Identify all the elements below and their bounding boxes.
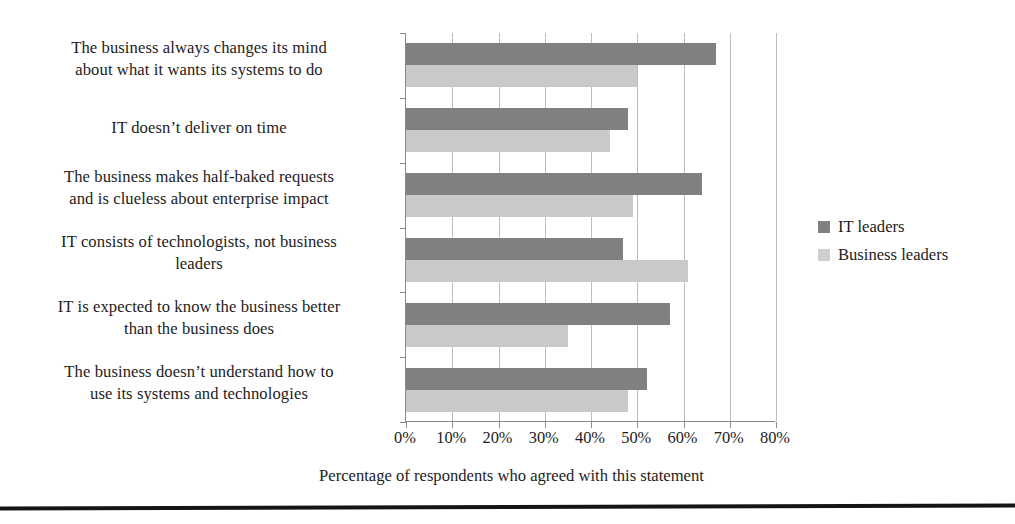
legend-swatch-icon-business-leaders (818, 249, 830, 261)
bar-chart-figure: The business always changes its mind abo… (0, 0, 1015, 524)
bar-it-leaders-5 (406, 303, 670, 325)
gridline-80% (776, 33, 777, 421)
bar-it-leaders-6 (406, 368, 647, 390)
gridline-50% (637, 33, 638, 421)
footer-divider (0, 504, 1015, 511)
bar-business-leaders-6 (406, 390, 628, 412)
category-label-3-line-2: and is clueless about enterprise impact (0, 188, 398, 210)
bar-business-leaders-1 (406, 65, 637, 87)
category-label-1: The business always changes its mind abo… (0, 37, 398, 81)
category-label-4: IT consists of technologists, not busine… (0, 231, 398, 275)
category-label-1-line-1: The business always changes its mind (0, 37, 398, 59)
x-tick-label-30%: 30% (529, 428, 559, 448)
y-axis-tick (400, 98, 406, 99)
category-label-6: The business doesn’t understand how to u… (0, 361, 398, 405)
x-tick-label-60%: 60% (667, 428, 697, 448)
y-axis-tick (400, 357, 406, 358)
legend-label-business-leaders: Business leaders (838, 245, 948, 265)
gridline-10% (452, 33, 453, 421)
category-label-6-line-1: The business doesn’t understand how to (0, 361, 398, 383)
y-axis-tick (400, 292, 406, 293)
x-axis-tick-labels: 0%10%20%30%40%50%60%70%80% (405, 428, 775, 452)
category-label-4-line-2: leaders (0, 253, 398, 275)
legend-item-it-leaders: IT leaders (818, 213, 1008, 241)
category-axis-labels: The business always changes its mind abo… (0, 33, 400, 422)
bar-business-leaders-4 (406, 260, 688, 282)
gridline-40% (591, 33, 592, 421)
y-axis-tick (400, 228, 406, 229)
x-tick-label-50%: 50% (621, 428, 651, 448)
category-label-3-line-1: The business makes half-baked requests (0, 166, 398, 188)
gridline-60% (684, 33, 685, 421)
category-label-5-line-2: than the business does (0, 318, 398, 340)
x-tick-label-10%: 10% (436, 428, 466, 448)
bar-business-leaders-3 (406, 195, 633, 217)
gridline-20% (499, 33, 500, 421)
legend: IT leaders Business leaders (818, 213, 1008, 269)
category-label-5-line-1: IT is expected to know the business bett… (0, 296, 398, 318)
category-label-3: The business makes half-baked requests a… (0, 166, 398, 210)
x-axis-title: Percentage of respondents who agreed wit… (0, 466, 1015, 486)
category-label-2: IT doesn’t deliver on time (0, 117, 398, 139)
gridline-70% (730, 33, 731, 421)
category-label-1-line-2: about what it wants its systems to do (0, 59, 398, 81)
x-tick-label-0%: 0% (394, 428, 416, 448)
bar-it-leaders-2 (406, 108, 628, 130)
x-tick-label-80%: 80% (760, 428, 790, 448)
legend-label-it-leaders: IT leaders (838, 217, 905, 237)
x-axis-title-text: Percentage of respondents who agreed wit… (311, 466, 704, 485)
x-tick-label-20%: 20% (482, 428, 512, 448)
bar-business-leaders-5 (406, 325, 568, 347)
bar-it-leaders-3 (406, 173, 702, 195)
y-axis-tick (400, 163, 406, 164)
plot-area (405, 33, 775, 422)
x-tick-label-40%: 40% (575, 428, 605, 448)
bar-business-leaders-2 (406, 130, 610, 152)
category-label-4-line-1: IT consists of technologists, not busine… (0, 231, 398, 253)
bar-it-leaders-4 (406, 238, 623, 260)
legend-item-business-leaders: Business leaders (818, 241, 1008, 269)
category-label-6-line-2: use its systems and technologies (0, 383, 398, 405)
bar-it-leaders-1 (406, 43, 716, 65)
category-label-5: IT is expected to know the business bett… (0, 296, 398, 340)
x-tick-label-70%: 70% (714, 428, 744, 448)
category-label-2-line-1: IT doesn’t deliver on time (0, 117, 398, 139)
gridline-30% (545, 33, 546, 421)
y-axis-tick (400, 33, 406, 34)
legend-swatch-icon-it-leaders (818, 221, 830, 233)
